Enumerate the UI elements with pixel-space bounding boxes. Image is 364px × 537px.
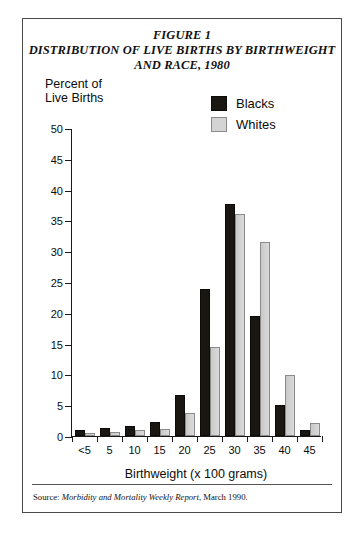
bar-whites-45 — [310, 423, 320, 436]
x-tick-mark — [297, 436, 298, 442]
bar-blacks-20 — [175, 395, 185, 436]
bar-whites-40 — [285, 375, 295, 436]
source-note: Source: Morbidity and Mortality Weekly R… — [33, 492, 248, 502]
bar-whites-lt5 — [85, 433, 95, 436]
y-tick-label: 30 — [51, 246, 63, 258]
y-tick-label: 15 — [51, 339, 63, 351]
y-tick-label: 25 — [51, 277, 63, 289]
bar-blacks-5 — [100, 428, 110, 436]
y-tick-label: 0 — [57, 431, 63, 443]
x-tick-mark — [147, 436, 148, 442]
x-tick-mark — [322, 436, 323, 442]
x-tick-mark — [197, 436, 198, 442]
bar-blacks-40 — [275, 405, 285, 436]
x-tick-mark — [222, 436, 223, 442]
x-tick-mark — [247, 436, 248, 442]
y-tick-mark — [65, 437, 72, 438]
x-tick-label: 25 — [203, 444, 215, 456]
x-tick-label: 40 — [278, 444, 290, 456]
x-tick-label: 10 — [128, 444, 140, 456]
y-tick-mark — [65, 160, 72, 161]
y-tick-mark — [65, 252, 72, 253]
y-tick-mark — [65, 314, 72, 315]
x-tick-label: <5 — [78, 444, 91, 456]
plot-wrapper: 05101520253035404550 <551015202530354045 — [23, 19, 341, 512]
bar-whites-15 — [160, 429, 170, 436]
y-tick-label: 40 — [51, 185, 63, 197]
x-tick-label: 30 — [228, 444, 240, 456]
bar-blacks-lt5 — [75, 430, 85, 436]
x-axis-title: Birthweight (x 100 grams) — [71, 467, 321, 481]
y-tick-mark — [65, 191, 72, 192]
bar-blacks-45 — [300, 430, 310, 436]
bar-blacks-35 — [250, 316, 260, 436]
x-tick-label: 45 — [303, 444, 315, 456]
x-tick-label: 20 — [178, 444, 190, 456]
bar-blacks-15 — [150, 422, 160, 436]
y-tick-mark — [65, 345, 72, 346]
source-prefix: Source: — [33, 492, 62, 502]
source-divider — [32, 484, 332, 485]
x-tick-mark — [97, 436, 98, 442]
bar-blacks-30 — [225, 204, 235, 436]
x-tick-mark — [172, 436, 173, 442]
y-tick-mark — [65, 406, 72, 407]
source-suffix: , March 1990. — [199, 492, 248, 502]
x-tick-label: 35 — [253, 444, 265, 456]
source-publication: Morbidity and Mortality Weekly Report — [62, 492, 199, 502]
bar-whites-5 — [110, 432, 120, 436]
y-tick-label: 45 — [51, 154, 63, 166]
x-tick-mark — [272, 436, 273, 442]
bar-whites-25 — [210, 347, 220, 436]
figure-frame: FIGURE 1 DISTRIBUTION OF LIVE BIRTHS BY … — [22, 18, 342, 513]
x-tick-mark — [72, 436, 73, 442]
plot-area: 05101520253035404550 <551015202530354045 — [71, 129, 321, 437]
y-tick-label: 35 — [51, 215, 63, 227]
bar-whites-10 — [135, 430, 145, 436]
y-tick-mark — [65, 283, 72, 284]
bar-whites-30 — [235, 214, 245, 436]
y-tick-mark — [65, 129, 72, 130]
y-tick-label: 20 — [51, 308, 63, 320]
y-tick-label: 10 — [51, 369, 63, 381]
y-tick-label: 5 — [57, 400, 63, 412]
x-tick-mark — [122, 436, 123, 442]
x-tick-label: 15 — [153, 444, 165, 456]
bar-blacks-25 — [200, 289, 210, 436]
y-tick-mark — [65, 375, 72, 376]
y-tick-label: 50 — [51, 123, 63, 135]
y-tick-mark — [65, 221, 72, 222]
bar-whites-20 — [185, 413, 195, 436]
bar-blacks-10 — [125, 426, 135, 436]
bars-layer — [72, 129, 321, 436]
x-tick-label: 5 — [106, 444, 112, 456]
bar-whites-35 — [260, 242, 270, 436]
